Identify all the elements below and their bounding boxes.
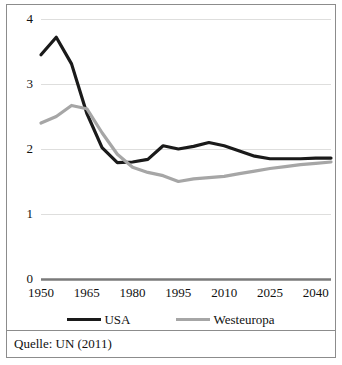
x-tick-label-1965: 1965 bbox=[67, 286, 107, 299]
legend-label-westeuropa: Westeuropa bbox=[213, 313, 274, 326]
x-tick-label-2025: 2025 bbox=[250, 286, 290, 299]
usa-line-swatch bbox=[67, 318, 101, 321]
y-tick-label-0: 0 bbox=[17, 272, 33, 285]
x-tick-label-2040: 2040 bbox=[296, 286, 336, 299]
westeuropa-line-swatch bbox=[176, 318, 210, 321]
y-tick-label-2: 2 bbox=[17, 142, 33, 155]
x-tick-label-1995: 1995 bbox=[158, 286, 198, 299]
gridlines-group bbox=[41, 20, 331, 280]
series-lines-group bbox=[41, 37, 331, 181]
y-tick-label-4: 4 bbox=[17, 12, 33, 25]
legend-item-westeuropa: Westeuropa bbox=[176, 313, 274, 326]
line-chart-svg bbox=[7, 5, 335, 311]
series-line-westeuropa bbox=[41, 105, 331, 181]
legend-label-usa: USA bbox=[104, 313, 130, 326]
y-tick-label-1: 1 bbox=[17, 207, 33, 220]
footer-divider bbox=[7, 330, 335, 331]
chart-legend: USAWesteuropa bbox=[7, 310, 335, 328]
x-tick-label-1950: 1950 bbox=[21, 286, 61, 299]
legend-item-usa: USA bbox=[67, 313, 130, 326]
series-line-usa bbox=[41, 37, 331, 162]
chart-plot-area: 01234 1950196519801995201020252040 bbox=[7, 5, 335, 311]
source-note: Quelle: UN (2011) bbox=[14, 336, 112, 351]
x-tick-label-1980: 1980 bbox=[113, 286, 153, 299]
chart-figure: 01234 1950196519801995201020252040 USAWe… bbox=[6, 4, 336, 358]
y-tick-label-3: 3 bbox=[17, 77, 33, 90]
x-tick-label-2010: 2010 bbox=[204, 286, 244, 299]
